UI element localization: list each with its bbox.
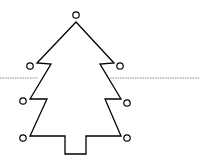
ornament-circle-icon-tier3-right: [124, 135, 130, 141]
ornament-circle-icon-tier1-right: [117, 63, 123, 69]
ornament-circle-icon-tier1-left: [27, 63, 33, 69]
tree-outline: [30, 22, 121, 154]
ornament-circle-icon-top: [73, 12, 79, 18]
ornament-circle-icon-tier3-left: [20, 135, 26, 141]
tree-diagram: [0, 0, 212, 165]
ornament-circle-icon-tier2-left: [20, 98, 26, 104]
ornament-circle-icon-tier2-right: [124, 100, 130, 106]
